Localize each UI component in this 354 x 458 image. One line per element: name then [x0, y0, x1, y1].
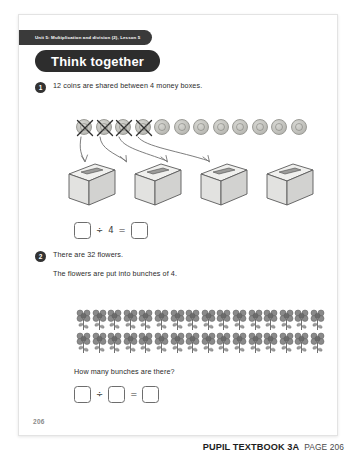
question-2-subtext: The flowers are put into bunches of 4. — [53, 269, 327, 278]
question-2-prompt: How many bunches are there? — [74, 367, 175, 376]
flower-icon — [154, 309, 169, 331]
flower-icon — [263, 332, 278, 354]
question-1-number: 1 — [35, 82, 46, 93]
answer-input-q1-a[interactable] — [74, 222, 91, 239]
flower-icon — [170, 309, 185, 331]
question-1-answer-row: ÷ 4 = — [74, 222, 148, 239]
unit-lesson-label: Unit 5: Multiplication and division (2),… — [35, 35, 140, 40]
flower-icon — [294, 332, 309, 354]
coin-icon-11 — [271, 119, 287, 135]
coin-crossed-3 — [115, 119, 131, 135]
section-banner: Think together — [35, 50, 160, 72]
coin-icon-6 — [174, 119, 190, 135]
flower-icon — [294, 309, 309, 331]
flower-icon — [232, 332, 247, 354]
question-2: 2 There are 32 flowers. The flowers are … — [35, 250, 327, 278]
coin-icon-7 — [193, 119, 209, 135]
flower-icon — [201, 332, 216, 354]
footer-book-title: PUPIL TEXTBOOK 3A — [203, 442, 299, 452]
flower-icon — [92, 332, 107, 354]
pencil-arrow-icon-4 — [138, 137, 209, 161]
pencil-arrow-icon-2 — [100, 137, 126, 161]
flower-icon — [107, 309, 122, 331]
cross-out-icon — [95, 118, 115, 138]
coin-icon-12 — [291, 119, 307, 135]
question-1-heading: 1 12 coins are shared between 4 money bo… — [35, 81, 327, 93]
coin-crossed-2 — [96, 119, 112, 135]
coins-row — [76, 119, 307, 135]
operator-divide: ÷ — [96, 390, 103, 399]
flower-icon — [279, 309, 294, 331]
coin-crossed-1 — [76, 119, 92, 135]
pencil-arrow-icon-3 — [119, 137, 167, 161]
flower-icon — [154, 332, 169, 354]
question-1: 1 12 coins are shared between 4 money bo… — [35, 81, 327, 93]
question-1-text: 12 coins are shared between 4 money boxe… — [53, 81, 202, 91]
flower-icon — [310, 332, 325, 354]
footer-bar: PUPIL TEXTBOOK 3A PAGE 206 — [0, 442, 354, 452]
pencil-arrow-icon-1 — [80, 137, 85, 161]
cross-out-icon — [75, 118, 95, 138]
cross-out-icon — [114, 118, 134, 138]
coin-icon-10 — [252, 119, 268, 135]
flower-icon — [263, 309, 278, 331]
flower-icon — [185, 332, 200, 354]
coin-icon-9 — [232, 119, 248, 135]
coin-icon-5 — [154, 119, 170, 135]
money-box-icon-3 — [197, 160, 249, 208]
operator-divide: ÷ — [96, 226, 103, 235]
money-boxes-row — [65, 160, 315, 208]
flower-icon — [232, 309, 247, 331]
operator-equals: = — [130, 390, 137, 399]
answer-input-q1-b[interactable] — [131, 222, 148, 239]
money-box-icon-1 — [65, 160, 117, 208]
flower-icon — [185, 309, 200, 331]
answer-input-q2-b[interactable] — [108, 386, 125, 403]
flower-icon — [248, 332, 263, 354]
flower-icon — [92, 309, 107, 331]
flower-row-2 — [76, 332, 325, 354]
money-box-icon-2 — [131, 160, 183, 208]
pencil-arrows-layer — [19, 15, 337, 435]
question-2-text: There are 32 flowers. — [53, 250, 123, 260]
money-box-icon-4 — [263, 160, 315, 208]
flower-icon — [279, 332, 294, 354]
coin-icon-8 — [213, 119, 229, 135]
flower-icon — [76, 332, 91, 354]
page-number: 206 — [33, 418, 45, 425]
cross-out-icon — [134, 118, 154, 138]
flower-icon — [138, 309, 153, 331]
flower-icon — [138, 332, 153, 354]
answer-input-q2-c[interactable] — [142, 386, 159, 403]
flower-icon — [123, 332, 138, 354]
answer-value-q1-divisor: 4 — [108, 226, 113, 235]
question-2-heading: 2 There are 32 flowers. — [35, 250, 327, 262]
flower-icon — [170, 332, 185, 354]
unit-lesson-tab: Unit 5: Multiplication and division (2),… — [19, 30, 152, 45]
operator-equals: = — [119, 226, 126, 235]
flower-icon — [248, 309, 263, 331]
flower-icon — [216, 332, 231, 354]
question-2-answer-row: ÷ = — [74, 386, 159, 403]
answer-input-q2-a[interactable] — [74, 386, 91, 403]
footer-page-label: PAGE 206 — [304, 442, 344, 452]
flower-icon — [310, 309, 325, 331]
section-banner-label: Think together — [51, 54, 144, 69]
coin-crossed-4 — [135, 119, 151, 135]
flower-row-1 — [76, 309, 325, 331]
flower-icon — [216, 309, 231, 331]
flower-icon — [201, 309, 216, 331]
question-2-number: 2 — [35, 251, 46, 262]
flower-icon — [123, 309, 138, 331]
textbook-page-sheet: Unit 5: Multiplication and division (2),… — [18, 14, 338, 436]
flower-icon — [107, 332, 122, 354]
flower-icon — [76, 309, 91, 331]
flowers-grid — [76, 309, 325, 354]
